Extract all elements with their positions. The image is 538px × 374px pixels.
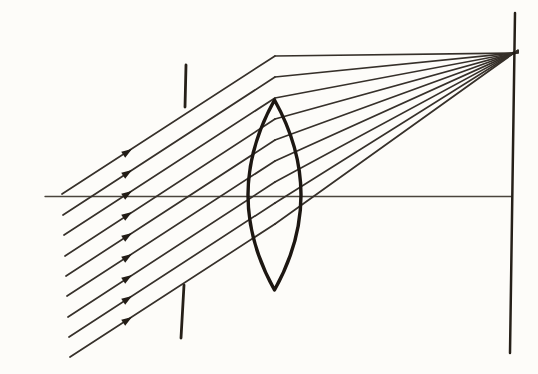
incoming-ray-2 — [63, 77, 275, 215]
focal-point — [512, 51, 516, 55]
aperture-plane-bottom-segment — [181, 285, 184, 338]
incoming-ray-7 — [68, 182, 275, 317]
incoming-ray-8 — [69, 203, 275, 337]
aperture-plane-top-segment — [185, 65, 186, 107]
incoming-ray-6 — [67, 161, 275, 296]
ray-direction-arrowhead-4 — [121, 212, 132, 221]
converging-lens-diagram — [0, 0, 538, 374]
ray-direction-arrowhead-7 — [121, 275, 132, 284]
ray-direction-arrowhead-1 — [121, 149, 132, 158]
optics-figure — [0, 0, 538, 374]
refracted-ray-3 — [275, 52, 518, 98]
focal-plane-line — [510, 13, 515, 353]
incoming-ray-4 — [65, 119, 275, 256]
ray-direction-arrowhead-3 — [121, 191, 132, 200]
ray-direction-arrowhead-5 — [121, 233, 132, 242]
ray-direction-arrowhead-2 — [121, 170, 132, 179]
ray-direction-arrowhead-6 — [121, 254, 132, 263]
incoming-ray-5 — [66, 140, 275, 276]
refracted-ray-6 — [275, 51, 518, 161]
incoming-ray-9 — [70, 224, 275, 357]
incoming-ray-3 — [64, 98, 275, 235]
refracted-ray-9 — [275, 50, 518, 224]
refracted-ray-4 — [275, 52, 518, 119]
incoming-ray-1 — [62, 56, 275, 194]
ray-direction-arrowhead-9 — [121, 317, 132, 326]
ray-direction-arrowhead-8 — [121, 296, 132, 305]
refracted-ray-7 — [275, 51, 518, 182]
